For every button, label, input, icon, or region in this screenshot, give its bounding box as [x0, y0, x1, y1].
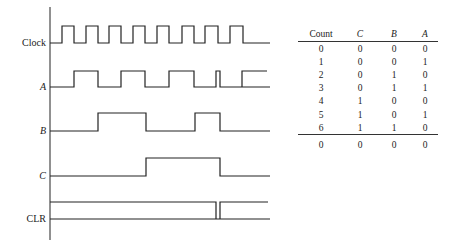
label-b: B: [0, 126, 46, 136]
table-cell: 0: [298, 42, 344, 56]
count-truth-table: Count C B A 0000100120103011410051016110…: [298, 27, 438, 152]
table-cell: 0: [412, 135, 438, 152]
waveform-b: [50, 113, 270, 131]
waveform-clock: [50, 26, 270, 43]
table-cell: 1: [344, 121, 376, 135]
table-cell: 0: [412, 121, 438, 135]
table-row: 0000: [298, 42, 438, 56]
table-row: 6110: [298, 121, 438, 135]
table-cell: 1: [376, 121, 412, 135]
waveform-c: [50, 158, 270, 176]
header-a: A: [412, 27, 438, 42]
table-row: 1001: [298, 55, 438, 68]
table-cell: 0: [344, 68, 376, 81]
label-a: A: [0, 82, 46, 92]
table-cell: 0: [412, 95, 438, 108]
table-cell: 6: [298, 121, 344, 135]
waveform-clr: [50, 202, 270, 219]
table-cell: 2: [298, 68, 344, 81]
table-cell: 1: [344, 95, 376, 108]
table-cell: 0: [344, 42, 376, 56]
table-row: 4100: [298, 95, 438, 108]
table-row: 2010: [298, 68, 438, 81]
table-cell: 0: [344, 55, 376, 68]
label-clr: CLR: [0, 214, 46, 224]
table-row: 3011: [298, 82, 438, 95]
header-c: C: [344, 27, 376, 42]
table-header-row: Count C B A: [298, 27, 438, 42]
table-cell: 1: [376, 68, 412, 81]
table-cell: 0: [412, 42, 438, 56]
table-cell: 0: [376, 95, 412, 108]
table-cell: 0: [376, 42, 412, 56]
table-cell: 0: [298, 135, 344, 152]
table-cell: 0: [344, 135, 376, 152]
table-cell: 1: [344, 108, 376, 121]
table-cell: 1: [412, 82, 438, 95]
table-cell: 1: [412, 108, 438, 121]
table-cell: 0: [344, 82, 376, 95]
table-cell: 0: [376, 55, 412, 68]
table-cell: 4: [298, 95, 344, 108]
table-cell: 1: [376, 82, 412, 95]
label-clock: Clock: [0, 38, 46, 48]
table-cell: 1: [298, 55, 344, 68]
table-cell: 5: [298, 108, 344, 121]
table-cell: 0: [412, 68, 438, 81]
header-b: B: [376, 27, 412, 42]
label-c: C: [0, 171, 46, 181]
header-count: Count: [298, 27, 344, 42]
table-row: 5101: [298, 108, 438, 121]
table-cell: 0: [376, 135, 412, 152]
waveform-a: [50, 71, 270, 87]
table-cell: 3: [298, 82, 344, 95]
table-cell: 0: [376, 108, 412, 121]
table-cell: 1: [412, 55, 438, 68]
table-footer-row: 0000: [298, 135, 438, 152]
